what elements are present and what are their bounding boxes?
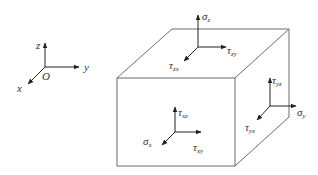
- tau-yx-label: τyx: [245, 121, 256, 135]
- tau-zy-label: τzy: [227, 44, 238, 58]
- origin-label: O: [42, 70, 50, 82]
- top-face-stresses: σz τzy τzx: [169, 10, 238, 73]
- sigma-y-label: σy: [297, 106, 306, 120]
- front-face: [117, 78, 235, 166]
- front-face-stresses: τxz τxy σx: [143, 106, 204, 155]
- sigma-x-arrow: [162, 132, 175, 145]
- sigma-x-label: σx: [143, 135, 152, 149]
- y-axis-label: y: [83, 61, 89, 73]
- x-axis-label: x: [16, 82, 22, 94]
- z-axis-label: z: [35, 39, 41, 51]
- tau-yx-arrow: [257, 106, 270, 120]
- top-face: [117, 29, 289, 78]
- coordinate-axes: z y O x: [16, 39, 89, 94]
- right-face: [235, 29, 289, 166]
- tau-xy-label: τxy: [193, 141, 204, 155]
- tau-zx-label: τzx: [169, 59, 180, 73]
- tau-zx-arrow: [184, 47, 198, 61]
- right-face-stresses: τyz σy τyx: [245, 74, 306, 135]
- tau-xz-label: τxz: [178, 106, 188, 120]
- tau-yz-label: τyz: [272, 74, 282, 88]
- stress-element-diagram: z y O x σz τzy τzx τxz τxy σx τyz σy: [0, 0, 318, 175]
- sigma-z-label: σz: [202, 10, 210, 24]
